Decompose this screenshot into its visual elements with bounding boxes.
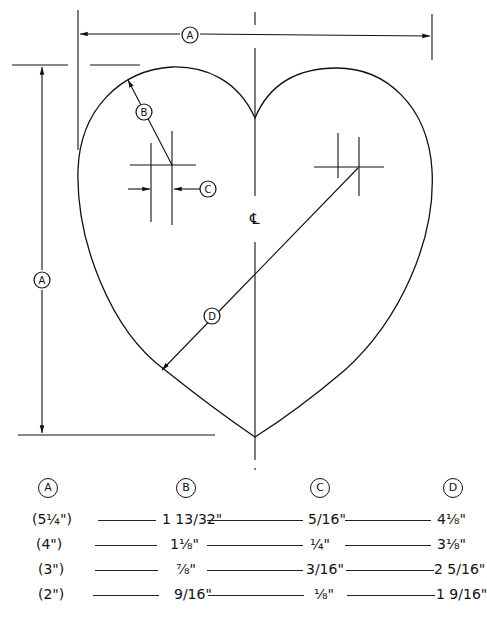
right-lobe-center: D (162, 133, 384, 370)
cell-c: ⅛" (314, 584, 334, 604)
cell-b: ⅞" (176, 559, 196, 579)
leader-line (95, 545, 157, 546)
cell-d: 1 9/16" (436, 584, 487, 604)
svg-text:D: D (208, 311, 216, 322)
svg-text:C: C (205, 184, 212, 195)
centerline-symbol: ℄ (249, 210, 260, 228)
leader-line (208, 595, 304, 596)
leader-line (346, 570, 434, 571)
cell-d: 2 5/16" (434, 559, 485, 579)
cell-a: (5¼") (32, 509, 72, 529)
column-header-b: B (176, 478, 196, 498)
leader-line (93, 595, 159, 596)
cell-c: ¼" (310, 534, 330, 554)
leader-line (345, 520, 431, 521)
table-row: (5¼") 1 13/32" 5/16" 4⅛" (0, 509, 487, 529)
leader-line (345, 545, 431, 546)
leader-line (98, 520, 156, 521)
leader-line (347, 595, 435, 596)
svg-text:B: B (141, 107, 148, 118)
cell-a: (2") (38, 584, 64, 604)
column-header-a: A (38, 478, 58, 498)
cell-a: (4") (36, 534, 62, 554)
cell-b: 1⅛" (170, 534, 199, 554)
leader-line (95, 570, 158, 571)
cell-d: 4⅛" (437, 509, 466, 529)
leader-line (207, 570, 303, 571)
cell-c: 3/16" (306, 559, 344, 579)
cell-b: 9/16" (174, 584, 212, 604)
column-header-d: D (443, 478, 463, 498)
heart-dimension-drawing: ℄ A A B C D (0, 0, 487, 470)
left-lobe-center: B C (128, 80, 216, 225)
table-row: (3") ⅞" 3/16" 2 5/16" (0, 559, 487, 579)
cell-a: (3") (38, 559, 64, 579)
height-dimension: A (12, 65, 215, 435)
cell-b: 1 13/32" (162, 509, 222, 529)
table-row: (4") 1⅛" ¼" 3⅛" (0, 534, 487, 554)
cell-d: 3⅛" (437, 534, 466, 554)
cell-c: 5/16" (308, 509, 346, 529)
svg-text:A: A (39, 275, 46, 286)
leader-line (207, 545, 303, 546)
dimension-table: A B C D (5¼") 1 13/32" 5/16" 4⅛" (4") 1⅛… (0, 478, 487, 622)
leader-line (207, 520, 303, 521)
table-row: (2") 9/16" ⅛" 1 9/16" (0, 584, 487, 604)
column-header-c: C (310, 478, 330, 498)
svg-text:A: A (187, 30, 194, 41)
